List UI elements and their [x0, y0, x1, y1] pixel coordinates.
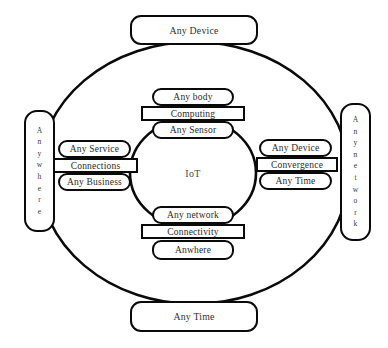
vletter: A [37, 125, 42, 137]
vletter: n [38, 136, 42, 148]
vletter: n [354, 126, 358, 138]
cluster-right-item-convergence[interactable]: Convergence [256, 157, 338, 172]
cluster-top-item-computing[interactable]: Computing [141, 106, 245, 121]
vletter: e [354, 160, 357, 172]
vletter: r [38, 194, 41, 206]
vletter: k [354, 218, 358, 230]
outer-box-any-time[interactable]: Any Time [130, 301, 258, 332]
cluster-left-item-any-business[interactable]: Any Business [58, 173, 131, 191]
outer-box-anywhere[interactable]: A n y w h e r e [24, 110, 55, 232]
vletter: o [354, 195, 358, 207]
iot-diagram: IoT Any Device Any Time A n y w h e r e … [0, 0, 388, 348]
vletter: e [38, 206, 41, 218]
center-label: IoT [163, 160, 223, 186]
outer-box-anynetwork[interactable]: A n y n e t w o r k [340, 103, 371, 241]
vletter: n [354, 149, 358, 161]
vletter: w [353, 184, 358, 196]
vletter: A [353, 114, 358, 126]
cluster-bottom-item-connectivity[interactable]: Connectivity [141, 224, 245, 239]
cluster-top-item-any-body[interactable]: Any body [152, 88, 234, 106]
vletter: r [354, 207, 357, 219]
cluster-left-item-any-service[interactable]: Any Service [58, 140, 131, 158]
outer-box-any-device[interactable]: Any Device [130, 15, 258, 45]
vletter: y [354, 137, 358, 149]
vletter: t [354, 172, 356, 184]
vletter: h [38, 171, 42, 183]
cluster-bottom-item-any-network[interactable]: Any network [152, 206, 234, 224]
cluster-bottom-item-anwhere[interactable]: Anwhere [152, 240, 234, 260]
cluster-left-item-connections[interactable]: Connections [53, 158, 138, 173]
cluster-right-item-any-device[interactable]: Any Device [259, 139, 332, 157]
cluster-top-item-any-sensor[interactable]: Any Sensor [152, 121, 234, 139]
vletter: e [38, 183, 41, 195]
vletter: w [37, 159, 42, 171]
vletter: y [38, 148, 42, 160]
cluster-right-item-any-time[interactable]: Any Time [259, 172, 332, 190]
